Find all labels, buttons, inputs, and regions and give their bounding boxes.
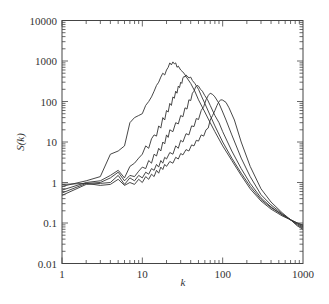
series-line-5	[62, 100, 303, 230]
chart: 0.010.1110100100010000 1101001000 k S(k)	[0, 0, 329, 304]
x-tick-label: 100	[214, 268, 231, 280]
y-tick-label: 100	[41, 96, 58, 108]
y-tick-label: 0.1	[43, 217, 57, 229]
y-tick-label: 1000	[35, 55, 58, 67]
y-tick-label: 10000	[30, 15, 58, 27]
x-axis-tick-labels: 1101001000	[59, 268, 314, 280]
series-line-4	[62, 93, 303, 228]
y-tick-label: 1	[52, 177, 58, 189]
y-axis-tick-labels: 0.010.1110100100010000	[30, 15, 58, 270]
x-tick-label: 10	[137, 268, 149, 280]
y-tick-label: 0.01	[38, 258, 57, 270]
x-tick-label: 1	[59, 268, 65, 280]
x-axis-label: k	[181, 276, 187, 288]
y-tick-label: 10	[46, 136, 58, 148]
x-tick-label: 1000	[292, 268, 315, 280]
y-axis-label: S(k)	[14, 133, 27, 151]
data-curves	[62, 62, 303, 229]
